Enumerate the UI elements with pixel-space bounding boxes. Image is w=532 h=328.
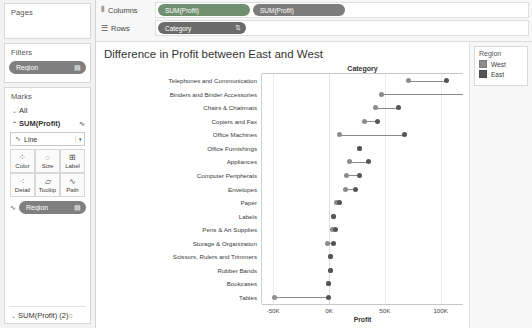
columns-pill-sum-profit-2[interactable]: SUM(Profit)	[253, 4, 345, 16]
dumbbell-connector	[274, 297, 329, 298]
filters-shelf-well[interactable]: Region ▤	[9, 61, 86, 75]
rows-pill-category[interactable]: Category ⇅	[158, 22, 246, 34]
tooltip-button[interactable]: ▱ Tooltip	[35, 173, 60, 197]
spacer	[9, 214, 86, 306]
label-button[interactable]: ⊞ Label	[60, 149, 85, 173]
category-label[interactable]: Copiers and Fax	[100, 115, 261, 129]
marks-pill-region[interactable]: Region ▤	[19, 201, 86, 214]
category-label[interactable]: Telephones and Communication	[100, 74, 261, 88]
marks-pill-region-label: Region	[26, 204, 48, 211]
columns-pill-sum-profit-1[interactable]: SUM(Profit)	[158, 4, 250, 16]
data-point-west[interactable]	[344, 173, 349, 178]
data-point-west[interactable]	[337, 132, 342, 137]
x-axis-scale: Profit -50K0K50K100K	[262, 304, 463, 328]
category-label[interactable]: Labels	[100, 209, 261, 223]
data-point-west[interactable]	[373, 105, 378, 110]
marks-group-sum-profit[interactable]: ⌃ SUM(Profit) ∿	[9, 117, 86, 130]
detail-button-label: Detail	[15, 187, 30, 193]
columns-shelf-well[interactable]: SUM(Profit) SUM(Profit)	[155, 2, 529, 18]
rows-shelf-well[interactable]: Category ⇅	[155, 20, 529, 36]
dumbbell-connector	[381, 94, 463, 95]
data-point-west[interactable]	[343, 187, 348, 192]
data-point-east[interactable]	[402, 132, 407, 137]
category-label[interactable]: Envelopes	[100, 182, 261, 196]
category-label[interactable]: Office Machines	[100, 128, 261, 142]
legend-item-east[interactable]: East	[479, 70, 523, 78]
path-button[interactable]: ∿ Path	[60, 173, 85, 197]
category-label[interactable]: Appliances	[100, 155, 261, 169]
plot-canvas[interactable]	[262, 74, 463, 304]
data-point-east[interactable]	[396, 105, 401, 110]
data-point-east[interactable]	[328, 254, 333, 259]
data-point-east[interactable]	[326, 281, 331, 286]
data-point-west[interactable]	[272, 295, 277, 300]
label-icon: ⊞	[69, 154, 76, 162]
legend-label-east: East	[491, 71, 504, 78]
category-label[interactable]: Bookcases	[100, 277, 261, 291]
chevron-down-icon[interactable]: ▾	[75, 136, 82, 142]
filters-title: Filters	[9, 47, 86, 60]
data-point-east[interactable]	[328, 268, 333, 273]
spacer	[100, 304, 262, 328]
data-point-east[interactable]	[337, 200, 342, 205]
category-label[interactable]: Computer Peripherals	[100, 169, 261, 183]
data-point-west[interactable]	[347, 159, 352, 164]
marks-group-sum-profit-2-label: SUM(Profit) (2)	[18, 311, 68, 320]
filter-pill-region[interactable]: Region ▤	[9, 61, 86, 74]
data-point-east[interactable]	[353, 187, 358, 192]
chevron-down-icon[interactable]: ⌄	[10, 107, 19, 114]
data-point-west[interactable]	[406, 78, 411, 83]
data-point-east[interactable]	[357, 173, 362, 178]
category-label[interactable]: Binders and Binder Accessories	[100, 88, 261, 102]
data-point-east[interactable]	[357, 146, 362, 151]
category-label[interactable]: Paper	[100, 196, 261, 210]
rows-pill-label: Category	[165, 25, 191, 32]
color-button[interactable]: ⁘ Color	[10, 149, 35, 173]
rows-label-text: Rows	[111, 24, 130, 33]
data-point-east[interactable]	[331, 214, 336, 219]
sort-icon[interactable]: ⇅	[235, 24, 241, 32]
filters-card: Filters Region ▤	[4, 43, 91, 83]
category-label[interactable]: Pens & Art Supplies	[100, 223, 261, 237]
mark-type-dropdown[interactable]: ∿ Line ▾	[10, 132, 85, 146]
detail-icon: ⁖	[20, 178, 25, 186]
category-label[interactable]: Office Furnishings	[100, 142, 261, 156]
data-point-east[interactable]	[366, 159, 371, 164]
chevron-down-icon[interactable]: ⌄	[9, 312, 18, 319]
data-point-east[interactable]	[375, 119, 380, 124]
marks-encoding-buttons: ⁘ Color ◌ Size ⊞ Label ⁖ Detail ▱ Tool	[10, 149, 85, 197]
chart-wrapper: Category Telephones and CommunicationBin…	[96, 65, 469, 328]
shelves-region: ⦀ Columns SUM(Profit) SUM(Profit) ☰ Rows	[96, 0, 532, 42]
data-point-east[interactable]	[333, 227, 338, 232]
viz-container: Difference in Profit between East and We…	[96, 42, 470, 328]
category-label[interactable]: Storage & Organization	[100, 236, 261, 250]
category-label[interactable]: Rubber Bands	[100, 263, 261, 277]
color-icon: ⁘	[19, 154, 26, 162]
work-area: ⦀ Columns SUM(Profit) SUM(Profit) ☰ Rows	[96, 0, 532, 328]
filter-menu-icon[interactable]: ▤	[74, 64, 81, 72]
legend-label-west: West	[491, 61, 506, 68]
legend-item-west[interactable]: West	[479, 60, 523, 68]
size-icon: ◌	[45, 154, 50, 162]
legend-title: Region	[479, 50, 523, 57]
marks-group-sum-profit-2[interactable]: ⌄ SUM(Profit) (2) ○	[9, 306, 86, 320]
category-label[interactable]: Scissors, Rulers and Trimmers	[100, 250, 261, 264]
filter-pill-label: Region	[16, 64, 38, 71]
size-button[interactable]: ◌ Size	[35, 149, 60, 173]
category-label[interactable]: Chairs & Chairmats	[100, 101, 261, 115]
columns-icon: ⦀	[101, 5, 104, 15]
marks-group-all[interactable]: ⌄ All	[9, 104, 86, 117]
path-encoding-icon: ∿	[10, 204, 16, 212]
data-point-east[interactable]	[331, 241, 336, 246]
chevron-up-icon[interactable]: ⌃	[10, 120, 19, 127]
data-point-east[interactable]	[326, 295, 331, 300]
category-label[interactable]: Tables	[100, 291, 261, 305]
data-point-west[interactable]	[379, 92, 384, 97]
data-point-east[interactable]	[444, 78, 449, 83]
data-point-west[interactable]	[362, 119, 367, 124]
x-axis-title: Profit	[262, 316, 463, 323]
marks-pill-menu-icon[interactable]: ▤	[74, 204, 81, 212]
pages-shelf-well[interactable]	[9, 20, 86, 34]
detail-button[interactable]: ⁖ Detail	[10, 173, 35, 197]
gridline	[273, 74, 274, 304]
